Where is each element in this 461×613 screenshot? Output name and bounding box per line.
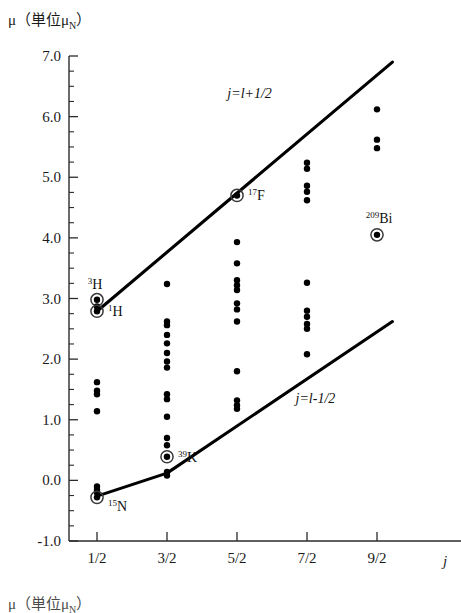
- data-point: [164, 472, 170, 478]
- data-point: [234, 300, 240, 306]
- isotope-label: 1H: [108, 303, 123, 319]
- y-axis-tick-labels: 7.06.05.04.03.02.01.00.0-1.0: [37, 48, 61, 549]
- isotope-symbol: H: [113, 304, 123, 319]
- isotope-label: 15N: [108, 498, 127, 514]
- data-point: [94, 391, 100, 397]
- isotope-symbol: Bi: [379, 211, 392, 226]
- isotope-mass-number: 209: [366, 210, 380, 220]
- y-tick-label: 4.0: [42, 230, 61, 246]
- y-tick-label: 2.0: [42, 351, 61, 367]
- data-point: [94, 408, 100, 414]
- data-point: [304, 313, 310, 319]
- data-point: [164, 414, 170, 420]
- data-point: [304, 183, 310, 189]
- curve-labels: j=l+1/2j=l-1/2: [225, 86, 335, 405]
- data-point: [234, 318, 240, 324]
- data-point: [164, 442, 170, 448]
- data-point: [164, 435, 170, 441]
- data-point-cloud: [91, 106, 383, 503]
- data-point: [164, 340, 170, 346]
- y-tick-label: 0.0: [42, 472, 61, 488]
- data-point: [94, 297, 100, 303]
- data-point: [164, 364, 170, 370]
- data-point: [304, 197, 310, 203]
- data-point: [164, 350, 170, 356]
- data-point: [234, 368, 240, 374]
- schmidt-lines: [97, 62, 392, 496]
- y-tick-label: 5.0: [42, 169, 61, 185]
- isotope-symbol: H: [92, 277, 102, 292]
- isotope-symbol: F: [257, 188, 265, 203]
- data-point: [234, 192, 240, 198]
- isotope-symbol: K: [187, 450, 197, 465]
- isotope-symbol: N: [117, 499, 127, 514]
- data-point: [164, 281, 170, 287]
- x-axis-tick-labels: 1/23/25/27/29/2: [87, 550, 386, 566]
- data-point: [164, 396, 170, 402]
- data-point: [94, 494, 100, 500]
- data-point: [374, 136, 380, 142]
- x-axis-major-ticks: [97, 532, 377, 541]
- data-point: [164, 322, 170, 328]
- data-point: [164, 358, 170, 364]
- x-tick-label: 9/2: [367, 550, 386, 566]
- data-point: [234, 260, 240, 266]
- isotope-label: 3H: [88, 276, 103, 292]
- schmidt-line: [97, 322, 392, 497]
- data-point: [374, 106, 380, 112]
- data-point: [234, 306, 240, 312]
- isotope-label: 209Bi: [366, 210, 393, 226]
- y-axis-major-ticks: [69, 56, 78, 541]
- x-tick-label: 1/2: [87, 550, 106, 566]
- data-point: [164, 454, 170, 460]
- data-point: [304, 160, 310, 166]
- data-point: [164, 332, 170, 338]
- data-point: [374, 145, 380, 151]
- x-tick-label: 5/2: [227, 550, 246, 566]
- y-tick-label: 7.0: [42, 48, 61, 64]
- data-point: [304, 351, 310, 357]
- data-point: [374, 232, 380, 238]
- x-tick-label: 3/2: [157, 550, 176, 566]
- schmidt-line-label: j=l+1/2: [225, 86, 272, 101]
- data-point: [304, 166, 310, 172]
- data-point: [304, 280, 310, 286]
- data-point: [94, 308, 100, 314]
- isotope-label: 17F: [248, 187, 265, 203]
- y-tick-label: -1.0: [37, 533, 61, 549]
- schmidt-line-label: j=l-1/2: [294, 391, 336, 406]
- data-point: [304, 307, 310, 313]
- data-point: [304, 326, 310, 332]
- plot-canvas: 7.06.05.04.03.02.01.00.0-1.0 1/23/25/27/…: [0, 0, 461, 613]
- nuclear-magnetic-moment-figure: μ（単位μN） μ（単位μN） 7.06.05.04.03.02.01.00.0…: [0, 0, 461, 613]
- axes: [69, 56, 461, 541]
- y-tick-label: 1.0: [42, 412, 61, 428]
- data-point: [234, 287, 240, 293]
- data-point: [234, 406, 240, 412]
- x-axis-letter: j: [441, 553, 447, 569]
- y-tick-label: 6.0: [42, 109, 61, 125]
- data-point: [304, 189, 310, 195]
- data-point: [94, 379, 100, 385]
- y-tick-label: 3.0: [42, 291, 61, 307]
- x-tick-label: 7/2: [297, 550, 316, 566]
- data-point: [234, 239, 240, 245]
